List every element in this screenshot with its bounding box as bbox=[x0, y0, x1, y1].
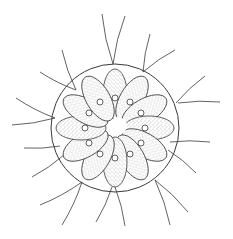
pyrenoid bbox=[97, 99, 103, 105]
flagellum bbox=[40, 182, 82, 205]
central-cavity bbox=[109, 117, 127, 135]
flagellum bbox=[102, 14, 113, 64]
flagellum bbox=[16, 98, 55, 118]
pyrenoid bbox=[138, 110, 144, 116]
pandorina-illustration bbox=[0, 0, 233, 239]
colony-drawing bbox=[0, 0, 233, 239]
pyrenoid bbox=[86, 110, 92, 116]
flagellum bbox=[168, 150, 196, 173]
pyrenoid bbox=[97, 151, 103, 157]
flagellum bbox=[176, 76, 205, 103]
flagellum bbox=[113, 16, 125, 64]
pyrenoid bbox=[86, 140, 92, 146]
flagellum bbox=[40, 72, 76, 90]
pyrenoid bbox=[138, 140, 144, 146]
pyrenoid bbox=[112, 155, 118, 161]
flagellum bbox=[143, 34, 150, 72]
flagellum bbox=[178, 101, 220, 103]
flagellum bbox=[32, 155, 64, 177]
flagellum bbox=[115, 187, 125, 226]
flagellum bbox=[170, 141, 210, 142]
pyrenoid bbox=[127, 151, 133, 157]
flagellum bbox=[155, 180, 170, 225]
pyrenoid bbox=[112, 95, 118, 101]
flagellum bbox=[143, 50, 175, 72]
pyrenoid bbox=[127, 99, 133, 105]
pyrenoid bbox=[82, 125, 88, 131]
flagellum bbox=[12, 118, 55, 125]
pyrenoid bbox=[142, 125, 148, 131]
flagellum bbox=[155, 180, 188, 212]
